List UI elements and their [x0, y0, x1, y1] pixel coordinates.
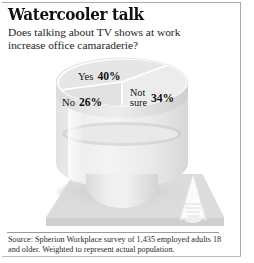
watercooler-illustration: Yes 40% No 26% Not sure 34%	[0, 48, 241, 234]
source-note: Source: Spherion Workplace survey of 1,4…	[8, 235, 223, 254]
source-divider	[7, 232, 219, 233]
infographic-card: Watercooler talk Does talking about TV s…	[0, 0, 254, 263]
pie-chart	[56, 54, 188, 116]
frame-border-bottom	[2, 256, 241, 257]
frame-border-top	[2, 2, 241, 3]
cone-cup-stack	[176, 174, 210, 226]
page-title: Watercooler talk	[8, 6, 201, 24]
